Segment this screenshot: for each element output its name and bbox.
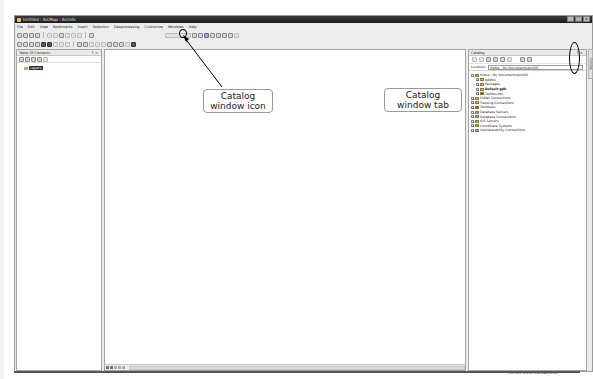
measure-icon[interactable]	[107, 42, 112, 47]
expand-icon[interactable]: +	[471, 124, 474, 127]
menu-bar: File Edit View Bookmarks Insert Selectio…	[15, 24, 592, 30]
new-document-icon[interactable]	[17, 33, 22, 38]
save-icon[interactable]	[29, 33, 34, 38]
toc-options-icon[interactable]	[43, 57, 48, 62]
expand-icon[interactable]: +	[476, 83, 479, 86]
list-by-drawing-order-icon[interactable]	[19, 57, 24, 62]
data-view-icon[interactable]	[106, 366, 109, 369]
print-icon[interactable]	[35, 33, 40, 38]
menu-customize[interactable]: Customize	[145, 25, 163, 29]
expand-icon[interactable]: +	[476, 92, 479, 95]
maximize-button[interactable]: □	[575, 16, 582, 22]
find-route-icon[interactable]	[113, 42, 118, 47]
scroll-left-icon[interactable]	[122, 366, 125, 369]
standard-toolbar	[15, 31, 592, 39]
select-elements-icon[interactable]	[131, 42, 136, 47]
create-viewer-window-icon[interactable]	[125, 42, 130, 47]
menu-view[interactable]: View	[40, 25, 48, 29]
catalog-tree: −Home - My Documents\ArcGIS +AddIns +Pac…	[469, 71, 586, 133]
up-one-level-icon[interactable]	[486, 57, 491, 62]
pan-icon[interactable]	[29, 42, 34, 47]
expand-icon[interactable]: +	[471, 106, 474, 109]
refresh-icon[interactable]	[114, 366, 117, 369]
cut-icon[interactable]	[47, 33, 52, 38]
expand-icon[interactable]: +	[471, 111, 474, 114]
tree-node-label: Database Servers	[480, 110, 508, 114]
find-icon[interactable]	[89, 42, 94, 47]
coordinate-system-icon	[475, 124, 479, 127]
expand-icon[interactable]: +	[476, 78, 479, 81]
toggle-contents-icon[interactable]	[507, 57, 512, 62]
connect-to-folder-icon[interactable]	[500, 57, 505, 62]
zoom-in-icon[interactable]	[17, 42, 22, 47]
full-extent-icon[interactable]	[35, 42, 40, 47]
window-controls: _ □ ×	[567, 16, 590, 22]
expand-icon[interactable]: +	[471, 129, 474, 132]
tree-node-label: Home - My Documents\ArcGIS	[480, 73, 528, 77]
menu-insert[interactable]: Insert	[78, 25, 88, 29]
geodatabase-icon	[480, 88, 484, 91]
paste-icon[interactable]	[59, 33, 64, 38]
previous-extent-icon[interactable]	[53, 42, 58, 47]
location-label: Location:	[471, 65, 486, 69]
whats-this-icon[interactable]	[234, 33, 239, 38]
expand-icon[interactable]: +	[471, 101, 474, 104]
forward-icon[interactable]	[479, 57, 484, 62]
tools-toolbar	[15, 40, 592, 48]
time-slider-icon[interactable]	[119, 42, 124, 47]
tree-node-label: Folder Connections	[480, 96, 511, 100]
pause-drawing-icon[interactable]	[118, 366, 121, 369]
tree-node-label: Coordinate Systems	[480, 124, 512, 128]
undo-icon[interactable]	[71, 33, 76, 38]
next-extent-icon[interactable]	[59, 42, 64, 47]
toolbar-separator	[73, 41, 74, 47]
delete-icon[interactable]	[65, 33, 70, 38]
layers-label[interactable]: Layers	[29, 66, 43, 70]
fixed-zoom-in-icon[interactable]	[41, 42, 46, 47]
toc-pin-close-icons[interactable]: ↑ ×	[91, 50, 98, 56]
list-by-visibility-icon[interactable]	[31, 57, 36, 62]
close-button[interactable]: ×	[583, 16, 590, 22]
layers-node[interactable]: Layers	[24, 66, 101, 70]
menu-file[interactable]: File	[17, 25, 23, 29]
expand-icon[interactable]: +	[476, 88, 479, 91]
list-by-selection-icon[interactable]	[37, 57, 42, 62]
expand-icon[interactable]: +	[471, 120, 474, 123]
arcmap-window: Untitled - ArcMap - ArcInfo _ □ × File E…	[14, 15, 593, 372]
tree-node-label: Default.gdb	[485, 87, 506, 91]
menu-selection[interactable]: Selection	[93, 25, 109, 29]
hyperlink-icon[interactable]	[95, 42, 100, 47]
open-icon[interactable]	[23, 33, 28, 38]
collapse-icon[interactable]: −	[471, 74, 474, 77]
options-icon[interactable]	[527, 57, 532, 62]
layout-view-icon[interactable]	[110, 366, 113, 369]
zoom-out-icon[interactable]	[23, 42, 28, 47]
home-folder-icon[interactable]	[493, 57, 498, 62]
horizontal-scrollbar[interactable]	[129, 366, 465, 370]
folder-connection-icon	[475, 97, 479, 100]
menu-edit[interactable]: Edit	[28, 25, 35, 29]
select-features-icon[interactable]	[77, 42, 82, 47]
menu-bookmarks[interactable]: Bookmarks	[53, 25, 73, 29]
fixed-zoom-out-icon[interactable]	[47, 42, 52, 47]
go-to-xy-icon[interactable]	[65, 42, 70, 47]
menu-geoprocessing[interactable]: Geoprocessing	[114, 25, 140, 29]
expand-icon[interactable]: +	[471, 97, 474, 100]
redo-icon[interactable]	[77, 33, 82, 38]
identify-icon[interactable]	[83, 42, 88, 47]
location-bar: Location: Home - My Documents\ArcGIS	[469, 64, 586, 71]
add-data-icon[interactable]	[89, 33, 94, 38]
views-icon[interactable]	[520, 57, 525, 62]
list-by-source-icon[interactable]	[25, 57, 30, 62]
tracking-connection-icon	[475, 101, 479, 104]
arcmap-app-icon	[17, 18, 21, 22]
menu-help[interactable]: Help	[189, 25, 197, 29]
catalog-side-tab[interactable]: Catalog	[588, 49, 593, 79]
tree-node-interoperability-connections[interactable]: +Interoperability Connections	[471, 128, 586, 133]
catalog-title: Catalog	[471, 51, 484, 55]
minimize-button[interactable]: _	[567, 16, 574, 22]
html-popup-icon[interactable]	[101, 42, 106, 47]
expand-icon[interactable]: +	[471, 115, 474, 118]
copy-icon[interactable]	[53, 33, 58, 38]
back-icon[interactable]	[472, 57, 477, 62]
